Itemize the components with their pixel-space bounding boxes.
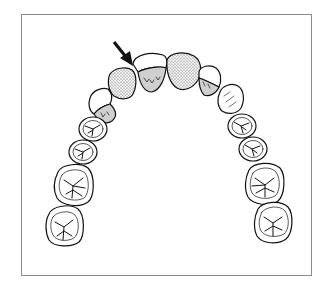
- tooth-left-lateral-incisor: [108, 68, 136, 99]
- tooth-left-central-incisor: [133, 53, 167, 92]
- tooth-right-central-incisor: [167, 53, 201, 90]
- tooth-left-first-molar: [54, 165, 93, 206]
- tooth-left-second-molar: [46, 206, 83, 246]
- tooth-left-first-premolar: [79, 117, 107, 141]
- tooth-right-canine: [218, 84, 243, 113]
- tooth-right-lateral-incisor: [199, 66, 221, 96]
- tooth-right-first-molar: [245, 163, 283, 204]
- arrow-icon: [114, 42, 133, 66]
- tooth-right-second-premolar: [239, 137, 267, 161]
- tooth-left-second-premolar: [69, 140, 97, 164]
- tooth-right-second-molar: [254, 202, 291, 243]
- tooth-right-first-premolar: [228, 114, 256, 138]
- dental-arch-diagram: [0, 0, 331, 288]
